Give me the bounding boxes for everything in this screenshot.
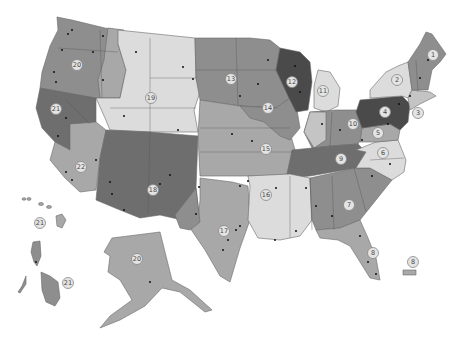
svg-text:21: 21	[36, 219, 44, 227]
svg-text:2: 2	[395, 76, 399, 84]
badge-region-4: 4	[380, 107, 391, 118]
region-16-lower-mississippi[interactable]	[248, 174, 312, 240]
svg-text:17: 17	[220, 227, 228, 235]
svg-text:12: 12	[288, 78, 296, 86]
us-region-map: 1 2 3 4 5 6 7 8 8 9 10 11 12 13 14 15 16…	[0, 0, 467, 350]
badge-region-20: 20	[72, 60, 83, 71]
svg-text:9: 9	[339, 155, 343, 163]
svg-text:11: 11	[319, 87, 327, 95]
svg-text:15: 15	[262, 145, 270, 153]
region-21-philippines[interactable]	[18, 241, 60, 306]
region-7-southeast[interactable]	[310, 168, 392, 230]
badge-region-22: 22	[76, 162, 87, 173]
badge-region-8-puerto-rico: 8	[408, 257, 419, 268]
svg-text:21: 21	[64, 279, 72, 287]
svg-text:6: 6	[381, 149, 385, 157]
badge-region-15: 15	[261, 144, 272, 155]
badge-region-17: 17	[219, 226, 230, 237]
region-3-new-england-south[interactable]	[408, 90, 436, 110]
svg-text:22: 22	[77, 163, 85, 171]
badge-region-10: 10	[348, 119, 359, 130]
svg-text:1: 1	[431, 51, 435, 59]
svg-text:18: 18	[149, 186, 157, 194]
region-20-alaska[interactable]	[100, 232, 212, 328]
region-1-northern-new-england[interactable]	[408, 32, 446, 90]
svg-text:3: 3	[416, 109, 420, 117]
badge-region-6: 6	[378, 148, 389, 159]
badge-region-3: 3	[413, 108, 424, 119]
badge-region-16: 16	[261, 190, 272, 201]
badge-region-13: 13	[226, 74, 237, 85]
badge-region-11: 11	[318, 86, 329, 97]
region-2-new-york[interactable]	[370, 62, 412, 98]
svg-text:14: 14	[264, 104, 272, 112]
svg-text:13: 13	[227, 75, 235, 83]
badge-region-14: 14	[263, 103, 274, 114]
svg-text:19: 19	[147, 94, 155, 102]
badge-region-20-alaska: 20	[132, 254, 143, 265]
svg-text:10: 10	[349, 120, 357, 128]
badge-region-21: 21	[51, 104, 62, 115]
svg-text:20: 20	[73, 61, 81, 69]
badge-region-5: 5	[373, 128, 384, 139]
badge-region-12: 12	[287, 77, 298, 88]
badge-region-7: 7	[344, 200, 355, 211]
svg-text:4: 4	[383, 108, 387, 116]
badge-region-21-philippines: 21	[63, 278, 74, 289]
svg-text:7: 7	[347, 201, 351, 209]
badge-region-1: 1	[428, 50, 439, 61]
svg-text:5: 5	[376, 129, 380, 137]
badge-region-19: 19	[146, 93, 157, 104]
badge-region-21-hawaii: 21	[35, 218, 46, 229]
svg-text:8: 8	[411, 258, 415, 266]
svg-text:8: 8	[371, 249, 375, 257]
svg-text:20: 20	[133, 255, 141, 263]
badge-region-18: 18	[148, 185, 159, 196]
badge-region-9: 9	[336, 154, 347, 165]
badge-region-8: 8	[368, 248, 379, 259]
svg-text:21: 21	[52, 105, 60, 113]
region-13-upper-plains[interactable]	[195, 38, 290, 108]
badge-region-2: 2	[392, 75, 403, 86]
region-8-puerto-rico[interactable]	[403, 270, 416, 275]
svg-text:16: 16	[262, 191, 270, 199]
